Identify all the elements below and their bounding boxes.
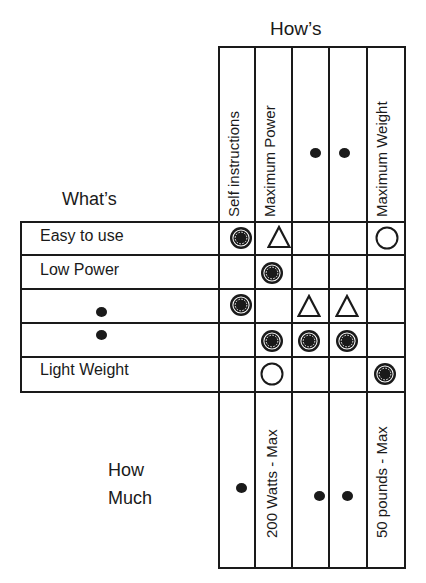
medium-relationship-icon xyxy=(375,226,399,250)
column-divider xyxy=(328,46,330,569)
row-label-easy-to-use: Easy to use xyxy=(40,227,124,245)
how-much-ellipsis-dot xyxy=(236,483,247,493)
row-label-ellipsis-dot xyxy=(96,330,107,340)
how-much-line2: Much xyxy=(108,484,152,512)
how-much-line1: How xyxy=(108,456,152,484)
column-header-self-instructions: Self instructions xyxy=(225,111,242,217)
row-divider xyxy=(20,356,406,358)
medium-relationship-icon xyxy=(260,362,284,386)
column-divider xyxy=(254,46,256,569)
strong-relationship-icon xyxy=(260,261,284,285)
row-divider xyxy=(20,322,406,324)
column-divider xyxy=(366,46,368,569)
column-header-ellipsis-dot xyxy=(310,148,321,158)
row-divider xyxy=(20,254,406,256)
hows-title: How’s xyxy=(270,18,321,40)
strong-relationship-icon xyxy=(260,329,284,353)
whats-title: What’s xyxy=(62,189,117,210)
row-label-ellipsis-dot xyxy=(96,307,107,317)
how-much-max-power: 200 Watts - Max xyxy=(263,429,280,538)
column-divider xyxy=(291,46,293,569)
row-divider xyxy=(20,288,406,290)
row-label-low-power: Low Power xyxy=(40,261,119,279)
weak-relationship-icon xyxy=(335,294,359,318)
column-header-ellipsis-dot xyxy=(339,148,350,158)
strong-relationship-icon xyxy=(335,329,359,353)
how-much-max-weight: 50 pounds - Max xyxy=(373,426,390,538)
strong-relationship-icon xyxy=(373,362,397,386)
column-header-maximum-weight: Maximum Weight xyxy=(373,101,390,217)
strong-relationship-icon xyxy=(297,329,321,353)
how-much-ellipsis-dot xyxy=(342,491,353,501)
strong-relationship-icon xyxy=(229,226,253,250)
strong-relationship-icon xyxy=(229,293,253,317)
weak-relationship-icon xyxy=(297,294,321,318)
column-header-maximum-power: Maximum Power xyxy=(261,105,278,217)
how-much-title: How Much xyxy=(108,456,152,512)
weak-relationship-icon xyxy=(267,225,291,249)
how-much-ellipsis-dot xyxy=(314,491,325,501)
row-label-light-weight: Light Weight xyxy=(40,361,129,379)
